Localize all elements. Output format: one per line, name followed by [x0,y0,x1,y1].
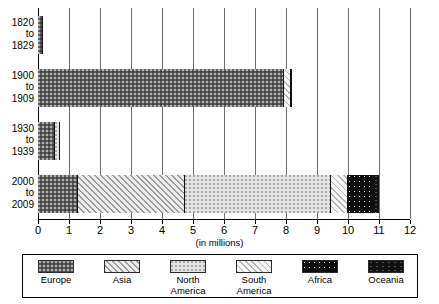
legend-label: North [155,275,221,286]
gridline [379,8,380,219]
y-axis-label-line: 1939 [0,146,34,158]
legend-item-oceania[interactable]: Oceania [353,255,419,297]
legend-item-europe[interactable]: Europe [23,255,89,297]
x-axis-tick-label: 1 [57,224,81,236]
y-axis-label-line: 1829 [0,40,34,52]
legend-label: South [221,275,287,286]
y-axis-label-line: to [0,134,34,146]
x-axis-tick-label: 12 [398,224,422,236]
y-axis-label-line: 2009 [0,199,34,211]
legend-label: Oceania [353,275,419,286]
bar-segment-europe [38,16,43,54]
legend-label-line2: America [155,286,221,297]
x-axis-tick-label: 8 [274,224,298,236]
bar-segment-europe [38,69,284,107]
x-axis-tick-label: 6 [212,224,236,236]
bar-segment-asia [78,175,185,213]
gridline [410,8,411,219]
x-axis-tick-label: 10 [336,224,360,236]
legend-item-africa[interactable]: Africa [287,255,353,297]
legend-item-north[interactable]: NorthAmerica [155,255,221,297]
y-axis-label-line: 2000 [0,176,34,188]
x-axis-tick-label: 7 [243,224,267,236]
y-axis-label-line: 1930 [0,123,34,135]
y-axis-label-line: 1820 [0,17,34,29]
legend-swatch-asia [104,260,140,273]
legend-swatch-north-america [170,260,206,273]
y-axis-label: 2000to2009 [0,176,34,211]
bar-segment-oceania [374,175,379,213]
x-axis-tick-label: 3 [119,224,143,236]
x-axis-tick-label: 0 [26,224,50,236]
x-axis-tick-label: 11 [367,224,391,236]
legend-item-asia[interactable]: Asia [89,255,155,297]
legend-swatch-oceania [368,260,404,273]
legend-label-line2: America [221,286,287,297]
legend-swatch-africa [302,260,338,273]
legend-swatch-europe [38,260,74,273]
x-axis-tick-label: 5 [181,224,205,236]
bar-segment-north-america [55,122,60,160]
bar-segment-europe [38,175,78,213]
y-axis-label: 1930to1939 [0,123,34,158]
legend-label: Europe [23,275,89,286]
stacked-bar-chart: 1820to18291900to19091930to19392000to2009… [0,0,439,304]
legend-label: Asia [89,275,155,286]
y-axis-label-line: to [0,187,34,199]
y-axis-label-line: to [0,28,34,40]
y-axis-label: 1900to1909 [0,70,34,105]
y-axis-label: 1820to1829 [0,17,34,52]
chart-legend: EuropeAsiaNorthAmericaSouthAmericaAfrica… [22,254,418,298]
bar-segment-oceania [291,69,293,107]
legend-label: Africa [287,275,353,286]
x-axis-title: (in millions) [0,237,439,248]
bar-segment-europe [38,122,55,160]
bar-segment-africa [348,175,374,213]
legend-swatch-south-america [236,260,272,273]
x-axis-tick-label: 9 [305,224,329,236]
bar-segment-south-america [331,175,348,213]
legend-item-south[interactable]: SouthAmerica [221,255,287,297]
x-axis-tick-label: 2 [88,224,112,236]
y-axis-label-line: to [0,81,34,93]
y-axis-label-line: 1909 [0,93,34,105]
y-axis-label-line: 1900 [0,70,34,82]
x-axis-tick-label: 4 [150,224,174,236]
bar-segment-north-america [185,175,331,213]
